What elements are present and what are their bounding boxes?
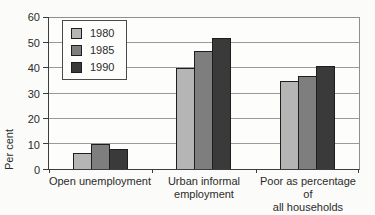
legend-row-1980: 1980 [71,27,114,39]
legend-label-1985: 1985 [90,44,114,56]
x-tick-mark-2 [256,169,257,173]
x-tick-mark-0 [49,169,50,173]
y-tick-label-30: 30 [28,88,40,99]
legend-swatch-1990 [71,62,82,73]
bar-1980-category-3 [280,81,299,169]
legend-row-1985: 1985 [71,44,114,56]
y-tick-label-60: 60 [28,12,40,23]
y-tick-label-10: 10 [28,139,40,150]
x-tick-mark-1 [152,169,153,173]
bar-1990-category-2 [212,38,231,169]
y-tick-label-0: 0 [34,165,40,176]
bar-1985-category-3 [298,76,317,169]
bar-group-2 [152,18,255,169]
bar-1980-category-2 [176,68,195,169]
legend-label-1980: 1980 [90,27,114,39]
legend-label-1990: 1990 [90,61,114,73]
bar-1990-category-1 [109,149,128,169]
legend: 198019851990 [62,20,127,80]
legend-swatch-1985 [71,45,82,56]
bar-1990-category-3 [316,66,335,169]
y-axis-ticks: 0102030405060 [0,17,40,170]
bar-1985-category-1 [91,144,110,169]
x-tick-mark-3 [358,169,359,173]
bar-chart: Per cent 0102030405060 198019851990 Open… [0,0,375,215]
y-tick-label-50: 50 [28,37,40,48]
legend-swatch-1980 [71,28,82,39]
legend-row-1990: 1990 [71,61,114,73]
y-tick-label-20: 20 [28,114,40,125]
bar-group-3 [256,18,359,169]
category-label-1: Open unemployment [48,175,152,214]
bar-1980-category-1 [73,153,92,169]
x-axis-labels: Open unemploymentUrban informalemploymen… [48,175,360,214]
bar-1985-category-2 [194,51,213,169]
y-tick-label-40: 40 [28,63,40,74]
category-label-2: Urban informalemployment [152,175,256,214]
category-label-3: Poor as percentage ofall households [256,175,360,214]
